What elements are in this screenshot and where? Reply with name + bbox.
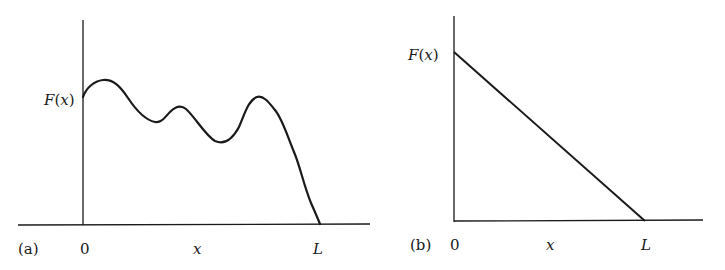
- panel-b-line: [454, 52, 645, 221]
- panel-a-tick-0: 0: [80, 240, 90, 258]
- panel-a-y-label: F(x): [43, 91, 75, 109]
- diagram-canvas: (a) 0 x L F(x) (b) 0 x L F(x): [0, 0, 725, 270]
- panel-b-x-axis: [454, 220, 703, 221]
- panel-b-x-label: x: [546, 236, 555, 254]
- panel-b-tick-0: 0: [450, 236, 460, 254]
- panel-a-x-axis: [18, 224, 370, 225]
- panel-a-tag: (a): [18, 240, 39, 258]
- panel-b-tick-L: L: [640, 236, 651, 254]
- panel-a-tick-L: L: [312, 240, 323, 258]
- panel-b-y-label: F(x): [407, 46, 439, 64]
- panel-b: (b) 0 x L F(x): [407, 16, 703, 254]
- panel-a-x-label: x: [193, 240, 202, 258]
- panel-a: (a) 0 x L F(x): [18, 20, 370, 258]
- panel-b-tag: (b): [410, 236, 431, 254]
- panel-a-curve: [83, 80, 320, 224]
